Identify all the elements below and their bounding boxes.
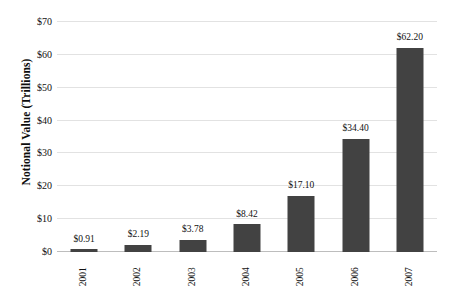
x-axis-tick-labels: 2001200220032004200520062007: [57, 256, 437, 302]
bar-chart: Notional Value (Trillions) $0$10$20$30$4…: [0, 0, 450, 302]
bar-slot: $62.20: [383, 22, 437, 252]
plot-area: $0.91$2.19$3.78$8.42$17.10$34.40$62.20: [57, 22, 437, 252]
x-tick-slot: 2001: [57, 256, 111, 302]
y-axis-tick-label: $10: [12, 214, 52, 224]
bar-slot: $34.40: [328, 22, 382, 252]
bar-value-label: $17.10: [288, 181, 314, 191]
y-axis-tick-label: $20: [12, 181, 52, 191]
bar[interactable]: [396, 48, 423, 252]
bar[interactable]: [288, 196, 315, 252]
x-axis-tick-label: 2005: [297, 267, 307, 286]
bar-value-label: $8.42: [236, 210, 257, 220]
x-axis-tick-label: 2006: [351, 267, 361, 286]
x-axis-tick-label: 2001: [79, 267, 89, 286]
bar-slot: $2.19: [111, 22, 165, 252]
bar-slot: $3.78: [166, 22, 220, 252]
bar[interactable]: [71, 249, 98, 252]
x-axis-tick-label: 2007: [405, 267, 415, 286]
bar-value-label: $2.19: [128, 230, 149, 240]
x-tick-slot: 2002: [111, 256, 165, 302]
bar[interactable]: [233, 224, 260, 252]
bar[interactable]: [125, 245, 152, 252]
bar[interactable]: [342, 139, 369, 252]
bar-slot: $0.91: [57, 22, 111, 252]
y-axis-tick-label: $0: [12, 247, 52, 257]
bar-series: $0.91$2.19$3.78$8.42$17.10$34.40$62.20: [57, 22, 437, 252]
bar-slot: $8.42: [220, 22, 274, 252]
bar-value-label: $3.78: [182, 225, 203, 235]
x-axis-tick-label: 2003: [188, 267, 198, 286]
y-axis-tick-label: $70: [12, 17, 52, 27]
bar-value-label: $0.91: [73, 235, 94, 245]
y-axis-tick-label: $60: [12, 50, 52, 60]
x-axis-tick-label: 2002: [134, 267, 144, 286]
bar-value-label: $62.20: [397, 33, 423, 43]
bar-value-label: $34.40: [343, 124, 369, 134]
y-axis-tick-label: $40: [12, 116, 52, 126]
x-tick-slot: 2007: [383, 256, 437, 302]
x-tick-slot: 2005: [274, 256, 328, 302]
x-tick-slot: 2006: [328, 256, 382, 302]
bar-slot: $17.10: [274, 22, 328, 252]
x-tick-slot: 2003: [166, 256, 220, 302]
x-tick-slot: 2004: [220, 256, 274, 302]
bar[interactable]: [179, 240, 206, 252]
x-axis-tick-label: 2004: [242, 267, 252, 286]
y-axis-tick-label: $30: [12, 148, 52, 158]
y-axis-tick-label: $50: [12, 83, 52, 93]
